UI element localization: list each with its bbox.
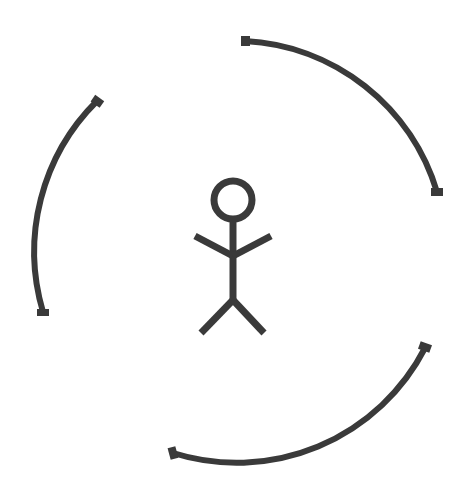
arc-endcap bbox=[431, 188, 443, 196]
stick-figure-left-leg bbox=[201, 300, 233, 333]
stick-figure-head bbox=[214, 181, 252, 219]
stick-figure-right-arm bbox=[233, 236, 271, 256]
arc-endcap bbox=[241, 36, 250, 46]
stick-figure-left-arm bbox=[195, 236, 233, 256]
stick-figure-right-leg bbox=[233, 300, 264, 333]
stick-figure bbox=[195, 181, 271, 333]
arc-left bbox=[34, 101, 97, 312]
arc-endcap bbox=[168, 446, 179, 460]
diagram-canvas bbox=[0, 0, 464, 491]
arc-top-right bbox=[245, 41, 437, 192]
arc-endcap bbox=[37, 309, 49, 316]
arc-bottom-right bbox=[173, 348, 425, 463]
